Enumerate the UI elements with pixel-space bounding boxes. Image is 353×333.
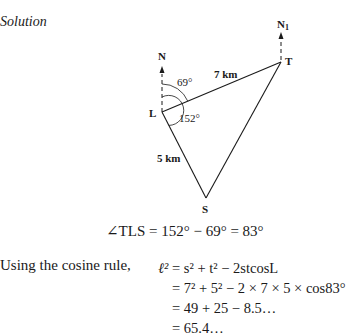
cosine-rule-line-4: = 65.4… [172, 320, 224, 333]
point-label-S: S [202, 203, 208, 215]
side-label-LS: 5 km [157, 152, 181, 164]
lhs: ℓ² [158, 260, 168, 276]
point-label-L: L [149, 107, 156, 119]
north-label-L: N [158, 50, 166, 62]
cosine-rule-line-2: = 7² + 5² − 2 × 7 × 5 × cos83° [172, 280, 346, 297]
cosine-rule-line-1: ℓ² = s² + t² − 2stcosL [158, 260, 278, 277]
angle-label-152: 152° [179, 112, 200, 124]
angle-equation: ∠TLS = 152° − 69° = 83° [106, 222, 264, 240]
north-label-T: N1 [277, 18, 289, 32]
intro-text: Using the cosine rule, [0, 257, 131, 274]
point-label-T: T [285, 55, 293, 67]
side-TS [206, 62, 281, 198]
cosine-rule-line-3: = 49 + 25 − 8.5… [172, 300, 276, 317]
north-arrow-icon-L [160, 66, 165, 73]
angle-label-69: 69° [177, 76, 192, 88]
north-arrow-icon-T [279, 32, 284, 39]
side-label-LT: 7 km [214, 68, 238, 80]
